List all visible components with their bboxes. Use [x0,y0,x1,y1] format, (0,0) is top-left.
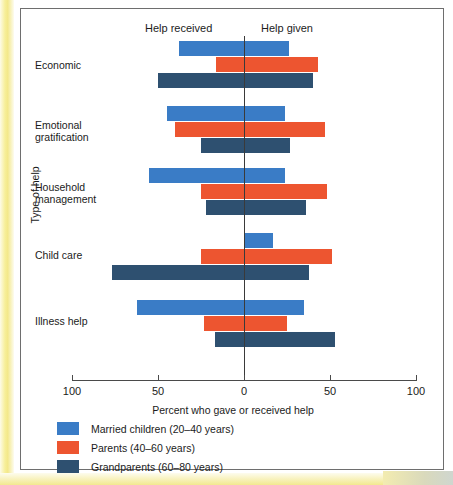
bar [158,73,313,88]
category-label: Household management [35,181,135,205]
x-tick [72,375,73,381]
bar [179,41,289,56]
help-received-header: Help received [145,22,212,34]
chart-legend: Married children (20–40 years)Parents (4… [57,419,234,476]
page-edge-left [0,0,14,476]
bar [149,168,285,183]
x-tick-label: 0 [241,385,247,397]
y-axis-title: Type of help [29,135,41,255]
legend-item: Parents (40–60 years) [57,438,234,457]
x-tick [330,375,331,381]
bar [201,249,332,264]
x-tick [158,375,159,381]
x-tick-label: 100 [63,385,81,397]
bar [204,316,287,331]
bar [175,122,325,137]
x-tick-label: 50 [324,385,336,397]
bar [201,184,327,199]
bar [216,57,317,72]
x-tick-label: 100 [407,385,425,397]
bar [137,300,304,315]
page-edge-bottom-right [383,471,453,485]
x-tick [244,375,245,381]
category-label: Economic [35,59,135,71]
x-tick [416,375,417,381]
legend-item: Grandparents (60–80 years) [57,457,234,476]
legend-label: Grandparents (60–80 years) [91,461,223,473]
chart-figure: Help received Help given 10050050100 Eco… [20,8,444,470]
legend-item: Married children (20–40 years) [57,419,234,438]
bar [206,200,306,215]
help-given-header: Help given [261,22,313,34]
scanned-page: Help received Help given 10050050100 Eco… [0,0,453,485]
legend-swatch [57,460,79,473]
legend-swatch [57,422,79,435]
x-tick-label: 50 [152,385,164,397]
legend-swatch [57,441,79,454]
category-label: Emotional gratification [35,119,135,143]
legend-label: Married children (20–40 years) [91,423,234,435]
legend-label: Parents (40–60 years) [91,442,195,454]
bar [167,106,286,121]
bar [201,138,290,153]
bar [112,265,310,280]
x-axis-title: Percent who gave or received help [21,404,445,416]
category-label: Illness help [35,315,135,327]
zero-axis-line [244,36,245,380]
bar [215,332,335,347]
plot-area: Help received Help given 10050050100 Eco… [21,9,445,471]
bar [244,233,273,248]
category-label: Child care [35,249,135,261]
